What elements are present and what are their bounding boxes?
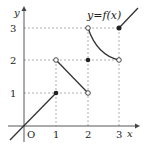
y-tick-2: 2 — [10, 55, 16, 66]
open-point — [86, 91, 91, 96]
x-tick-1: 1 — [53, 129, 59, 140]
x-tick-3: 3 — [116, 129, 122, 140]
function-label: y=f(x) — [86, 9, 121, 22]
closed-point — [54, 91, 59, 96]
x-axis-label: x — [127, 128, 133, 139]
closed-point — [117, 26, 122, 31]
open-point — [86, 26, 91, 31]
y-axis-label: y — [13, 7, 20, 18]
y-tick-3: 3 — [10, 23, 16, 34]
closed-point — [86, 58, 91, 63]
y-tick-1: 1 — [10, 88, 16, 99]
origin-label: O — [27, 129, 35, 140]
function-graph: y=f(x) y x O 1 2 3 1 2 3 — [0, 0, 147, 148]
x-tick-2: 2 — [85, 129, 91, 140]
open-point — [117, 58, 122, 63]
open-point — [54, 58, 59, 63]
y-axis-arrow-icon — [22, 6, 27, 11]
x-axis-arrow-icon — [135, 124, 140, 129]
